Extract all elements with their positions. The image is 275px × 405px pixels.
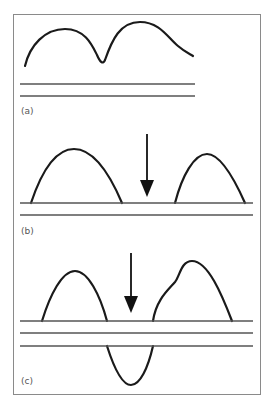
panel-b-arrow-head: [140, 180, 154, 197]
panel-b-label: (b): [21, 227, 34, 236]
panel-a-label: (a): [21, 107, 34, 116]
panel-c-label: (c): [21, 377, 33, 386]
panel-a: [20, 22, 195, 96]
panel-c-hump-left: [42, 271, 107, 321]
panel-c-hump-right: [153, 261, 232, 321]
panel-b: [20, 134, 253, 215]
panel-a-wave-curve: [25, 22, 193, 66]
panel-c-trough: [107, 346, 153, 385]
wave-diagram: [0, 0, 275, 405]
panel-c: [20, 253, 253, 385]
panel-b-hump-left: [31, 149, 122, 203]
panel-b-hump-right: [175, 154, 245, 203]
panel-c-arrow-head: [124, 296, 138, 313]
